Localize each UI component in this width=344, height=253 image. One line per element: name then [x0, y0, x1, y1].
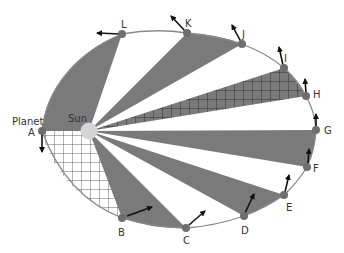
sun [81, 123, 98, 140]
label-planet: Planet [12, 116, 43, 127]
label-sun: Sun [68, 113, 87, 124]
planet-I [280, 64, 288, 72]
arrow-F [308, 149, 309, 164]
planet-G [312, 126, 320, 134]
planet-E [280, 191, 288, 199]
planet-H [302, 92, 310, 100]
arrow-H [305, 79, 306, 93]
arrow-C [189, 211, 205, 225]
label-K: K [185, 18, 192, 29]
label-A: A [28, 127, 35, 138]
planet-L [118, 30, 126, 38]
label-L: L [121, 19, 127, 30]
label-G: G [324, 125, 332, 136]
label-E: E [286, 202, 292, 213]
label-H: H [313, 89, 321, 100]
kepler-second-law-diagram: Planet Sun A B C D E F G H I J K L [0, 0, 344, 253]
arrow-I [279, 47, 283, 65]
planet-C [182, 224, 190, 232]
planet-D [240, 212, 248, 220]
label-I: I [284, 53, 287, 64]
label-F: F [313, 163, 319, 174]
planet-A [38, 127, 46, 135]
arrow-K [171, 16, 186, 32]
arrow-E [285, 175, 289, 192]
planet-B [118, 214, 126, 222]
label-D: D [241, 225, 249, 236]
label-J: J [241, 29, 245, 40]
arrow-L [97, 33, 120, 34]
planet-K [183, 29, 191, 37]
label-B: B [118, 227, 125, 238]
planet-J [238, 40, 246, 48]
planet-F [303, 163, 311, 171]
label-C: C [183, 235, 190, 246]
